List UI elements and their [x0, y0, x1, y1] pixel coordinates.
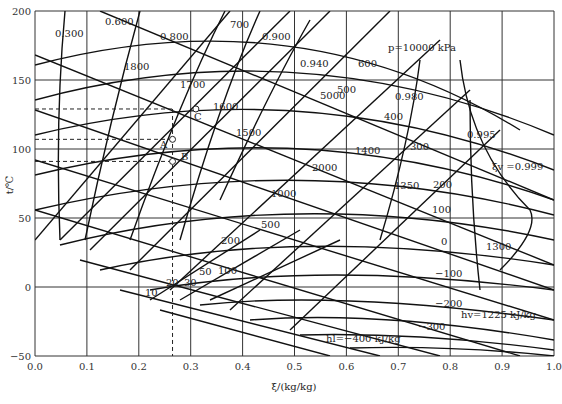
label-hlm400: hl=−400 kJ/kg [326, 333, 401, 344]
label-p10: 10 [145, 287, 158, 298]
x-tick-label: 0.7 [390, 361, 406, 372]
label-p200: 200 [221, 235, 240, 246]
y-tick-label: 150 [12, 75, 31, 86]
label-hlm200: −200 [435, 298, 462, 309]
x-tick-label: 0.6 [338, 361, 354, 372]
label-p2000: 2000 [312, 162, 337, 173]
label-B: B [181, 151, 188, 162]
y-tick-label: 200 [12, 6, 31, 17]
label-hl400: 400 [384, 111, 403, 122]
label-hv1800: 1800 [124, 61, 149, 72]
x-tick-label: 0.4 [235, 361, 251, 372]
p-1000 [170, 40, 440, 290]
label-p500: 500 [261, 219, 280, 230]
label-p50: 50 [199, 266, 212, 277]
x-tick-label: 0.1 [79, 361, 95, 372]
label-p100: 100 [218, 265, 237, 276]
label-hv1500: 1500 [236, 127, 261, 138]
label-q999: ξv =0.999 [492, 161, 543, 172]
label-q300: 0.300 [55, 28, 84, 39]
label-hl200: 200 [433, 179, 452, 190]
hl-m400 [350, 347, 554, 356]
label-hlm300: −300 [418, 321, 445, 332]
x-tick-label: 0.3 [183, 361, 199, 372]
label-hl700: 700 [230, 19, 249, 30]
label-hv1225: hv=1225 kJ/kg [461, 309, 537, 320]
label-hl100: 100 [432, 204, 451, 215]
x-tick-label: 0.0 [27, 361, 43, 372]
point-b [170, 158, 176, 164]
x-tick-label: 0.8 [442, 361, 458, 372]
label-p20: 20 [166, 277, 179, 288]
label-hv1300: 1300 [486, 241, 511, 252]
label-hlm100: −100 [435, 268, 462, 279]
label-hv1600: 1600 [213, 101, 238, 112]
y-tick-label: 100 [12, 144, 31, 155]
label-q600: 0.600 [105, 16, 134, 27]
label-C: C [194, 111, 202, 122]
label-q980: 0.980 [395, 91, 424, 102]
label-hv1700: 1700 [180, 79, 205, 90]
label-p1000: 1000 [271, 188, 296, 199]
y-tick-label: 50 [18, 213, 31, 224]
label-hv1400: 1400 [355, 145, 380, 156]
y-tick-label: 0 [25, 282, 31, 293]
y-axis-label: t/℃ [4, 176, 15, 195]
point-a [170, 136, 176, 142]
label-hv1350: 1350 [394, 180, 419, 191]
x-tick-label: 0.2 [131, 361, 147, 372]
label-hl300: 300 [410, 141, 429, 152]
label-p10000: p=10000 kPa [388, 42, 456, 53]
label-A: A [159, 139, 168, 150]
label-q940: 0.940 [300, 58, 329, 69]
hv-1300 [120, 290, 380, 356]
label-hl0: 0 [441, 236, 447, 247]
label-q900: 0.900 [262, 31, 291, 42]
p-10 [150, 230, 260, 300]
label-hl600: 600 [358, 58, 377, 69]
p-500 [130, 11, 390, 270]
y-tick-label: −50 [10, 351, 31, 362]
label-hl500: 500 [337, 84, 356, 95]
x-tick-label: 1.0 [546, 361, 562, 372]
label-p30: 30 [184, 277, 197, 288]
x-axis-label: ξ/(kg/kg) [272, 381, 317, 392]
q-900 [180, 11, 260, 240]
x-tick-label: 0.9 [494, 361, 510, 372]
chart-svg: 0.00.10.20.30.40.50.60.70.80.91.0−500501… [0, 0, 562, 404]
label-q995: 0.995 [467, 129, 496, 140]
label-q800: 0.800 [160, 31, 189, 42]
x-tick-label: 0.5 [287, 361, 303, 372]
